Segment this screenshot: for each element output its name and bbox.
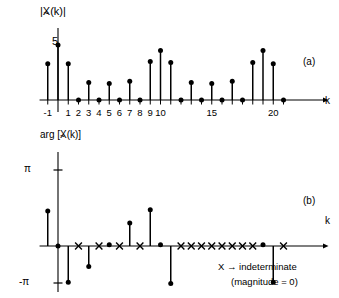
magnitude-stem-marker [66, 61, 71, 66]
neg-pi-tick-label: -π [19, 277, 29, 287]
magnitude-stem-marker [281, 98, 286, 103]
plot-canvas: -1123456789101520 [0, 0, 339, 298]
magnitude-stem-marker [148, 59, 153, 64]
phase-axis-label-post: (k)] [67, 129, 81, 140]
magnitude-xtick-label: 15 [206, 107, 217, 118]
k-axis-label-panel-a: k [325, 96, 330, 106]
magnitude-stem-marker [230, 79, 235, 84]
phase-stem-marker [66, 280, 71, 285]
magnitude-xtick-label: 10 [155, 107, 166, 118]
phase-axis-label: arg [X~(k)] [40, 130, 81, 140]
phase-stem-marker [45, 208, 50, 213]
phase-stem-marker [56, 244, 61, 249]
magnitude-xtick-label: -1 [44, 107, 52, 118]
magnitude-stem-marker [261, 48, 266, 53]
magnitude-stem-marker [271, 61, 276, 66]
magnitude-stem-marker [209, 81, 214, 86]
magnitude-axis-label-post: (k)| [50, 5, 66, 17]
magnitude-xtick-label: 6 [117, 107, 122, 118]
magnitude-axis-label: |X~(k)| [40, 6, 66, 17]
magnitude-stem-marker [76, 98, 81, 103]
magnitude-stem-marker [127, 79, 132, 84]
magnitude-xtick-label: 4 [96, 107, 101, 118]
phase-stem-marker [261, 242, 266, 247]
phase-k-axis-arrow [323, 243, 329, 248]
figure-dft-magnitude-phase: -1123456789101520 |X~(k)| 5 (a) k arg [X… [0, 0, 339, 298]
magnitude-stem-marker [117, 98, 122, 103]
magnitude-stem-marker [240, 98, 245, 103]
magnitude-stem-marker [220, 98, 225, 103]
magnitude-stem-marker [107, 81, 112, 86]
phase-stem-marker [86, 264, 91, 269]
magnitude-stem-marker [199, 98, 204, 103]
phase-stem-marker [158, 242, 163, 247]
pi-tick-label: π [24, 164, 31, 174]
magnitude-xtick-label: 8 [137, 107, 142, 118]
magnitude-peak-value-label: 5 [52, 36, 58, 47]
k-axis-label-panel-b: k [325, 216, 330, 226]
panel-a-label: (a) [303, 57, 315, 67]
magnitude-stem-marker [97, 98, 102, 103]
phase-stem-marker [107, 242, 112, 247]
magnitude-xtick-label: 9 [148, 107, 153, 118]
magnitude-stem-marker [158, 48, 163, 53]
panel-a-magnitude-plot: -1123456789101520 [40, 28, 329, 118]
phase-stem-marker [127, 221, 132, 226]
magnitude-stem-marker [45, 61, 50, 66]
magnitude-stem-marker [179, 98, 184, 103]
phase-stem-marker [148, 207, 153, 212]
magnitude-xtick-label: 2 [76, 107, 81, 118]
magnitude-xtick-label: 5 [107, 107, 112, 118]
magnitude-xtick-label: 1 [66, 107, 71, 118]
magnitude-stem-marker [189, 80, 194, 85]
magnitude-stem-marker [250, 60, 255, 65]
magnitude-xtick-label: 20 [268, 107, 279, 118]
panel-b-label: (b) [303, 196, 315, 206]
magnitude-stem-marker [168, 60, 173, 65]
magnitude-xtick-label: 7 [127, 107, 132, 118]
legend-line-1: X → indeterminate [218, 262, 297, 272]
phase-stem-marker [168, 281, 173, 286]
magnitude-xtick-label: 3 [86, 107, 91, 118]
magnitude-stem-marker [138, 98, 143, 103]
magnitude-stem-marker [86, 80, 91, 85]
legend-line-2: (magnitude = 0) [231, 277, 298, 287]
